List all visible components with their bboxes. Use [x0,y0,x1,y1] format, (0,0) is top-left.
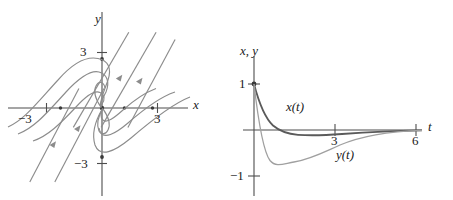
arrow-lower-left-inner [74,125,81,132]
loop-lower-inner [101,89,156,122]
time-t-axis-label: t [428,120,432,133]
series-label-y: y(t) [336,148,354,161]
bottom-node-dot [100,155,104,159]
phase-ytick-label-3: 3 [80,45,87,58]
curve-x-of-t [254,84,422,135]
phase-y-axis-label: y [95,12,101,25]
time-ttick-label-6: 6 [412,134,419,147]
series-label-x: x(t) [286,100,304,113]
time-v-axis-label: x, y [240,44,258,57]
time-ttick-label-3: 3 [331,134,338,147]
crossing-dot-1 [59,106,62,109]
phase-ytick-label-neg3: −3 [74,157,88,170]
phase-xtick-label-neg3: −3 [18,112,32,125]
crossing-dot-3 [151,106,154,109]
eigenline-far-right [128,40,175,128]
phase-portrait-panel: y x −3 3 3 −3 [0,0,226,200]
phase-x-axis-label: x [193,98,199,111]
phase-xtick-label-3: 3 [154,112,161,125]
time-vtick-label-neg1: −1 [230,169,244,182]
arrow-upper-right-outer [136,78,143,85]
eigenline-right [101,32,156,127]
loop-lower-outer [94,97,190,152]
figure-root: y x −3 3 3 −3 x, y t 3 6 1 −1 x(t) y(t) [0,0,453,200]
time-series-svg [226,0,453,200]
time-series-panel: x, y t 3 6 1 −1 x(t) y(t) [226,0,453,200]
time-vtick-label-1: 1 [239,77,246,90]
arrow-upper-right-inner [116,75,123,82]
